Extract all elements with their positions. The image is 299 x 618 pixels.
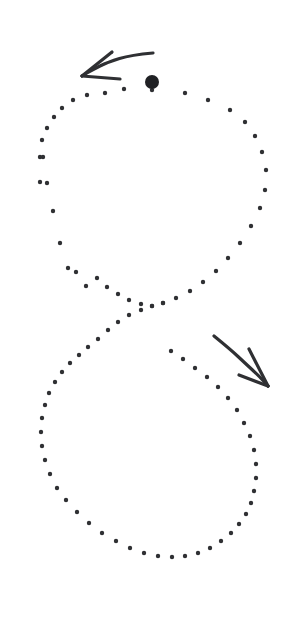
trajectory-dot: [254, 476, 258, 480]
trajectory-dot: [260, 150, 264, 154]
trajectory-dot: [114, 539, 118, 543]
trajectory-dot: [183, 554, 187, 558]
trajectory-dot: [244, 512, 248, 516]
trajectory-dot: [188, 289, 192, 293]
trajectory-dot: [248, 434, 252, 438]
trajectory-dot: [127, 313, 131, 317]
trajectory-dot: [174, 296, 178, 300]
trajectory-dot: [77, 353, 81, 357]
trajectory-dot: [139, 308, 143, 312]
trajectory-dot: [205, 375, 209, 379]
trajectory-dot: [181, 357, 185, 361]
trajectory-dot: [127, 298, 131, 302]
trajectory-dot: [87, 521, 91, 525]
trajectory-dot: [264, 168, 268, 172]
trajectory-dot: [238, 241, 242, 245]
trajectory-dot: [214, 269, 218, 273]
trajectory-dot: [48, 472, 52, 476]
trajectory-dot: [219, 539, 223, 543]
trajectory-dot: [116, 320, 120, 324]
trajectory-dot: [71, 98, 75, 102]
trajectory-dot: [74, 270, 78, 274]
trajectory-dot: [52, 115, 56, 119]
trajectory-dot: [254, 462, 258, 466]
trajectory-dot: [106, 328, 110, 332]
trajectory-dot: [237, 522, 241, 526]
trajectory-dot: [252, 489, 256, 493]
trajectory-dot: [60, 370, 64, 374]
trajectory-dot: [86, 345, 90, 349]
trajectory-dot: [228, 108, 232, 112]
trajectory-dot: [206, 98, 210, 102]
trajectory-dot: [243, 120, 247, 124]
trajectory-dot: [150, 304, 154, 308]
trajectory-dot: [105, 285, 109, 289]
trajectory-dot: [156, 554, 160, 558]
trajectory-dot: [43, 403, 47, 407]
figure-eight-trajectory-svg: [0, 0, 299, 618]
trajectory-dot: [235, 408, 239, 412]
trajectory-dot: [47, 391, 51, 395]
trajectory-dot: [58, 241, 62, 245]
trajectory-dot: [103, 91, 107, 95]
trajectory-dot: [53, 380, 57, 384]
trajectory-dot: [45, 181, 49, 185]
trajectory-dot: [60, 106, 64, 110]
start-marker-dot: [145, 75, 159, 89]
trajectory-dot: [249, 224, 253, 228]
trajectory-dot: [75, 510, 79, 514]
trajectory-dot: [196, 551, 200, 555]
trajectory-dot: [95, 276, 99, 280]
trajectory-dot: [208, 546, 212, 550]
trajectory-dot: [253, 134, 257, 138]
trajectory-dot: [161, 301, 165, 305]
trajectory-dot: [40, 138, 44, 142]
trajectory-dot: [43, 458, 47, 462]
trajectory-dot: [201, 280, 205, 284]
canvas-background: [0, 0, 299, 618]
trajectory-dot: [85, 93, 89, 97]
trajectory-dot: [38, 155, 42, 159]
trajectory-dot: [64, 498, 68, 502]
trajectory-dot: [249, 501, 253, 505]
trajectory-dot: [116, 292, 120, 296]
trajectory-dot: [183, 91, 187, 95]
trajectory-dot: [40, 416, 44, 420]
figure-canvas: [0, 0, 299, 618]
trajectory-dot: [242, 421, 246, 425]
trajectory-dot: [55, 486, 59, 490]
trajectory-dot: [66, 266, 70, 270]
trajectory-dot: [252, 448, 256, 452]
trajectory-dot: [84, 284, 88, 288]
trajectory-dot: [193, 366, 197, 370]
trajectory-dot: [229, 531, 233, 535]
trajectory-dot: [139, 302, 143, 306]
trajectory-dot: [68, 361, 72, 365]
trajectory-dot: [226, 396, 230, 400]
trajectory-dot: [170, 555, 174, 559]
trajectory-dot: [51, 209, 55, 213]
trajectory-dot: [40, 444, 44, 448]
trajectory-dot: [45, 126, 49, 130]
trajectory-dot: [38, 180, 42, 184]
trajectory-dot: [258, 206, 262, 210]
trajectory-dot: [226, 256, 230, 260]
trajectory-dot: [169, 349, 173, 353]
trajectory-dot: [100, 531, 104, 535]
trajectory-dot: [128, 546, 132, 550]
trajectory-dot: [142, 551, 146, 555]
trajectory-dot: [96, 337, 100, 341]
trajectory-dot: [122, 87, 126, 91]
start-position-marker: [145, 75, 159, 89]
trajectory-dot: [216, 385, 220, 389]
trajectory-dot: [39, 430, 43, 434]
trajectory-dot: [263, 188, 267, 192]
